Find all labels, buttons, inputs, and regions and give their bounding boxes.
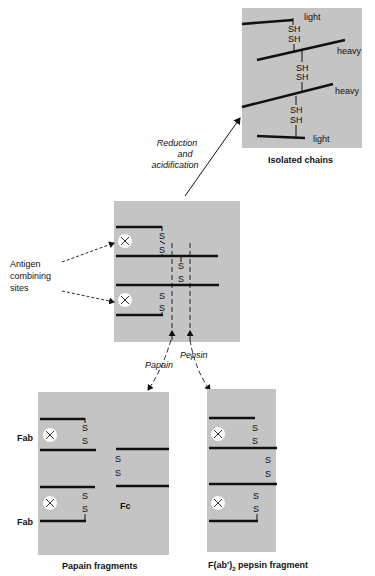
- reduction-label-3: acidification: [151, 160, 198, 170]
- svg-text:S: S: [82, 436, 88, 446]
- papain-label: Papain: [145, 360, 173, 370]
- antigen-site: [43, 428, 57, 442]
- svg-text:S: S: [115, 454, 121, 464]
- fc-label: Fc: [120, 501, 131, 511]
- sh-label: SH: [288, 24, 301, 34]
- label-heavy-2: heavy: [335, 86, 360, 96]
- papain-fragments-panel: S S S S S S Fc: [38, 392, 169, 555]
- svg-text:S: S: [178, 261, 184, 271]
- isolated-chains-panel: light SH SH heavy SH SH heavy SH SH ligh…: [242, 8, 362, 148]
- pepsin-label: Pepsin: [180, 350, 208, 360]
- isolated-chains-caption: Isolated chains: [268, 155, 333, 165]
- antigen-sites-label-3: sites: [10, 283, 29, 293]
- sh-label: SH: [290, 115, 303, 125]
- svg-text:S: S: [178, 274, 184, 284]
- fab-label-top: Fab: [17, 433, 34, 443]
- pepsin-fragment-panel: S S S S S S: [207, 389, 277, 552]
- reduction-arrow: [185, 118, 240, 196]
- svg-text:S: S: [253, 491, 259, 501]
- svg-text:S: S: [265, 469, 271, 479]
- svg-text:S: S: [82, 423, 88, 433]
- sh-label: SH: [290, 105, 303, 115]
- sh-label: SH: [296, 72, 309, 82]
- sh-label: SH: [288, 34, 301, 44]
- antigen-site-bottom: [118, 293, 132, 307]
- fab-label-bottom: Fab: [17, 517, 34, 527]
- papain-fragments-caption: Papain fragments: [62, 561, 138, 571]
- antigen-site: [211, 427, 225, 441]
- antibody-fragmentation-diagram: light SH SH heavy SH SH heavy SH SH ligh…: [0, 0, 375, 576]
- svg-text:S: S: [159, 231, 165, 241]
- label-light-bottom: light: [313, 134, 330, 144]
- intact-antibody-panel: S S S S S S: [114, 201, 240, 342]
- svg-text:S: S: [82, 504, 88, 514]
- pepsin-arrow: [190, 340, 210, 390]
- svg-text:S: S: [159, 291, 165, 301]
- antigen-site-top: [118, 234, 132, 248]
- reduction-label-2: and: [177, 149, 193, 159]
- label-light-top: light: [304, 12, 321, 22]
- label-heavy-1: heavy: [337, 46, 362, 56]
- pointer-arrow-top: [62, 243, 114, 262]
- svg-text:S: S: [159, 245, 165, 255]
- pepsin-fragment-caption: F(ab')2 pepsin fragment: [208, 560, 308, 572]
- svg-text:S: S: [115, 468, 121, 478]
- pointer-arrow-bottom: [62, 291, 114, 302]
- svg-text:S: S: [265, 455, 271, 465]
- antigen-sites-label-2: combining: [10, 271, 51, 281]
- antigen-site: [43, 496, 57, 510]
- svg-text:S: S: [252, 423, 258, 433]
- svg-text:S: S: [82, 491, 88, 501]
- antigen-site: [211, 496, 225, 510]
- svg-text:S: S: [252, 436, 258, 446]
- antigen-sites-label-1: Antigen: [10, 259, 41, 269]
- svg-text:S: S: [253, 504, 259, 514]
- svg-text:S: S: [159, 303, 165, 313]
- reduction-label-1: Reduction: [157, 138, 198, 148]
